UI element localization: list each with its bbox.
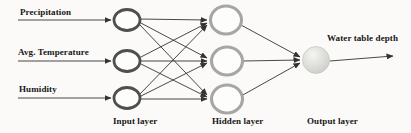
hidden-node-3 <box>212 85 243 113</box>
edge-hidden2-output <box>243 60 300 61</box>
layer-label-hidden: Hidden layer <box>212 116 263 126</box>
edge-hidden3-output <box>241 63 300 96</box>
output-node <box>303 47 330 74</box>
input-label-humidity: Humidity <box>19 84 57 94</box>
edge-layer <box>18 19 393 99</box>
input-label-avg-temperature: Avg. Temperature <box>18 47 89 57</box>
layer-label-output: Output layer <box>307 116 358 126</box>
edge-input1-hidden1 <box>139 19 207 20</box>
input-node-2 <box>114 51 140 72</box>
input-node-1 <box>114 10 140 31</box>
hidden-node-2 <box>212 47 243 75</box>
arrow-water-table-depth <box>330 56 393 61</box>
input-label-precipitation: Precipitation <box>20 7 71 17</box>
diagram-graphics <box>0 0 411 133</box>
output-label-water-table-depth: Water table depth <box>327 33 398 43</box>
hidden-node-1 <box>211 6 242 34</box>
hidden-layer-nodes <box>211 6 243 113</box>
neural-network-diagram: Precipitation Avg. Temperature Humidity … <box>0 0 411 133</box>
edge-hidden1-output <box>241 25 300 57</box>
input-layer-nodes <box>114 10 140 109</box>
input-node-3 <box>114 88 140 109</box>
layer-label-input: Input layer <box>113 116 157 126</box>
